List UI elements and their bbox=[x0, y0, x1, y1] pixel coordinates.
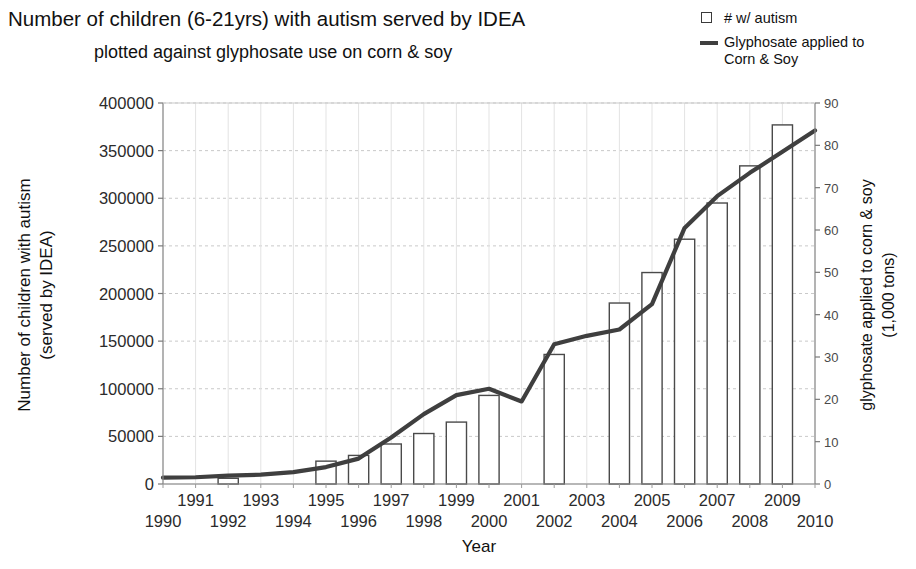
x-tick-2008: 2008 bbox=[731, 512, 768, 530]
y2-axis-title-line-2: (1,000 tons) bbox=[880, 252, 897, 337]
y-tick-200000: 200000 bbox=[99, 285, 154, 303]
x-tick-1991: 1991 bbox=[177, 491, 214, 509]
chart-figure: Number of children (6-21yrs) with autism… bbox=[0, 0, 916, 569]
bar-2007 bbox=[707, 203, 727, 484]
x-tick-1990: 1990 bbox=[145, 512, 182, 530]
y-tick-350000: 350000 bbox=[99, 142, 154, 160]
y-tick-100000: 100000 bbox=[99, 380, 154, 398]
y2-tick-10: 10 bbox=[824, 435, 838, 450]
x-tick-1994: 1994 bbox=[275, 512, 312, 530]
y2-tick-0: 0 bbox=[824, 477, 831, 492]
y-axis-tick-labels: 0500001000001500002000002500003000003500… bbox=[99, 94, 154, 493]
x-tick-1993: 1993 bbox=[242, 491, 279, 509]
bar-1999 bbox=[446, 422, 466, 484]
x-tick-2006: 2006 bbox=[666, 512, 703, 530]
y2-tick-80: 80 bbox=[824, 138, 838, 153]
y-axis-title-line-1: Number of children with autism bbox=[15, 178, 34, 411]
x-axis-title: Year bbox=[462, 537, 497, 556]
y-tick-150000: 150000 bbox=[99, 332, 154, 350]
chart-canvas: 0500001000001500002000002500003000003500… bbox=[0, 0, 916, 569]
x-tick-1997: 1997 bbox=[373, 491, 410, 509]
y2-tick-70: 70 bbox=[824, 181, 838, 196]
x-tick-1992: 1992 bbox=[210, 512, 247, 530]
x-tick-1995: 1995 bbox=[308, 491, 345, 509]
y-tick-250000: 250000 bbox=[99, 237, 154, 255]
x-tick-2010: 2010 bbox=[797, 512, 834, 530]
y2-axis-tick-labels: 0102030405060708090 bbox=[824, 96, 838, 492]
bar-2008 bbox=[740, 166, 760, 484]
y2-tick-90: 90 bbox=[824, 96, 838, 111]
x-axis-tick-labels: 1990199119921993199419951996199719981999… bbox=[145, 491, 834, 530]
bar-2002 bbox=[544, 354, 564, 484]
x-tick-2007: 2007 bbox=[699, 491, 736, 509]
x-tick-2004: 2004 bbox=[601, 512, 638, 530]
y2-tick-40: 40 bbox=[824, 308, 838, 323]
y-tick-0: 0 bbox=[145, 475, 154, 493]
y2-tick-60: 60 bbox=[824, 223, 838, 238]
bar-2009 bbox=[772, 125, 792, 484]
x-tick-2009: 2009 bbox=[764, 491, 801, 509]
x-tick-1999: 1999 bbox=[438, 491, 475, 509]
x-tick-2000: 2000 bbox=[471, 512, 508, 530]
y-axis-title-line-2: (served by IDEA) bbox=[37, 230, 56, 359]
y-tick-300000: 300000 bbox=[99, 189, 154, 207]
x-tick-2001: 2001 bbox=[503, 491, 540, 509]
bar-2006 bbox=[674, 239, 694, 484]
y-tick-400000: 400000 bbox=[99, 94, 154, 112]
x-tick-2003: 2003 bbox=[568, 491, 605, 509]
y2-axis-title-line-1: glyphosate applied to corn & soy bbox=[858, 179, 875, 410]
bar-1998 bbox=[414, 434, 434, 484]
x-tick-2005: 2005 bbox=[634, 491, 671, 509]
y2-tick-30: 30 bbox=[824, 350, 838, 365]
x-tick-2002: 2002 bbox=[536, 512, 573, 530]
bar-2000 bbox=[479, 395, 499, 484]
x-tick-1996: 1996 bbox=[340, 512, 377, 530]
x-tick-1998: 1998 bbox=[405, 512, 442, 530]
y2-tick-50: 50 bbox=[824, 265, 838, 280]
bar-1992 bbox=[218, 478, 238, 484]
bar-1997 bbox=[381, 444, 401, 484]
y2-tick-20: 20 bbox=[824, 392, 838, 407]
bar-series bbox=[218, 125, 792, 484]
y-tick-50000: 50000 bbox=[108, 427, 154, 445]
